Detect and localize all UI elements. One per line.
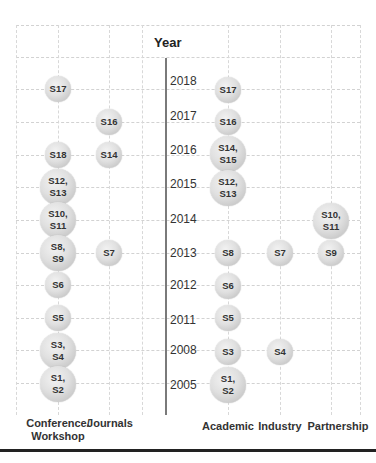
bubble-conference-2016: S18 — [45, 142, 71, 168]
year-axis-line — [165, 58, 167, 415]
column-label-partnership: Partnership — [302, 420, 374, 433]
bubble-academic-2012: S6 — [215, 273, 241, 299]
grid-line — [142, 25, 143, 415]
grid-line — [16, 57, 360, 58]
bubble-partnership-2014: S10, S11 — [313, 203, 349, 239]
bubble-academic-2015: S12, S13 — [210, 170, 246, 206]
year-label: 2015 — [170, 177, 210, 191]
bubble-timeline-diagram: Year 2018 2017 2016 2015 2014 2013 2012 … — [0, 0, 376, 463]
year-axis-title: Year — [154, 35, 181, 50]
bubble-conference-2011: S5 — [45, 305, 71, 331]
bubble-academic-2005: S1, S2 — [210, 367, 246, 403]
bottom-divider — [0, 449, 376, 452]
year-label: 2012 — [170, 278, 210, 292]
bubble-conference-2014: S10, S11 — [40, 202, 76, 238]
bubble-industry-2008: S4 — [267, 339, 293, 365]
column-label-industry: Industry — [253, 420, 307, 433]
bubble-conference-2013: S8, S9 — [40, 235, 76, 271]
grid-line — [16, 25, 17, 415]
bubble-academic-2018: S17 — [215, 77, 241, 103]
year-label: 2016 — [170, 143, 210, 157]
bubble-industry-2013: S7 — [267, 240, 293, 266]
bubble-journals-2016: S14 — [96, 142, 122, 168]
bubble-conference-2012: S6 — [45, 272, 71, 298]
bubble-academic-2008: S3 — [215, 339, 241, 365]
bubble-partnership-2013: S9 — [318, 240, 344, 266]
bubble-journals-2013: S7 — [96, 240, 122, 266]
bubble-academic-2016: S14, S15 — [210, 136, 246, 172]
bubble-conference-2018: S17 — [45, 76, 71, 102]
column-label-academic: Academic — [198, 420, 258, 433]
year-label: 2013 — [170, 246, 210, 260]
bubble-conference-2015: S12, S13 — [40, 169, 76, 205]
grid-line — [360, 25, 361, 415]
year-label: 2017 — [170, 109, 210, 123]
year-label: 2008 — [170, 343, 210, 357]
bubble-conference-2005: S1, S2 — [40, 366, 76, 402]
bubble-academic-2013: S8 — [215, 240, 241, 266]
column-label-journals: Journals — [84, 417, 136, 430]
year-label: 2005 — [170, 378, 210, 392]
year-label: 2011 — [170, 313, 210, 327]
grid-line — [109, 25, 110, 415]
year-label: 2014 — [170, 212, 210, 226]
bubble-academic-2017: S16 — [215, 109, 241, 135]
bubble-academic-2011: S5 — [215, 305, 241, 331]
year-label: 2018 — [170, 74, 210, 88]
bubble-conference-2008: S3, S4 — [40, 333, 76, 369]
grid-line — [16, 25, 360, 26]
bubble-journals-2017: S16 — [96, 109, 122, 135]
